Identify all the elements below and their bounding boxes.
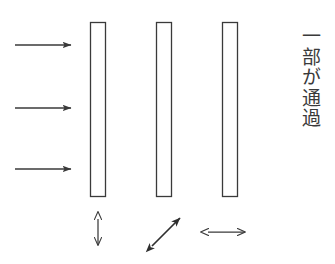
caption-partial-transmission: 一部が通過 xyxy=(288,26,322,129)
polarization-axis-diagonal xyxy=(152,218,180,246)
polarizer-plates xyxy=(91,23,238,197)
polarization-axis-symbols xyxy=(98,218,245,246)
polarizer-3 xyxy=(223,23,238,197)
incident-beam-arrows xyxy=(15,45,71,169)
polarizer-2 xyxy=(157,23,172,197)
polarizer-diagram: 一部が通過 xyxy=(0,0,335,264)
diagram-canvas xyxy=(0,0,335,264)
polarizer-1 xyxy=(91,23,106,197)
